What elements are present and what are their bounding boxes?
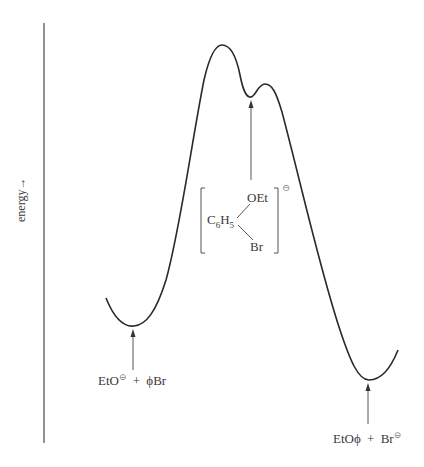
intermediate-charge: ⊝ (282, 183, 290, 193)
energy-profile-svg (0, 0, 424, 467)
reactant-plus: + (133, 373, 140, 388)
reactant-charge: ⊝ (119, 372, 127, 382)
energy-axis-label: energy→ (14, 178, 29, 222)
reactants-label: EtO⊝ + ϕBr (98, 373, 166, 387)
reactant-eto: EtO (98, 373, 119, 388)
intermediate-c6h5-label: C6H5 (207, 213, 234, 230)
intermediate-left-bracket (201, 188, 205, 253)
energy-axis-text: energy→ (14, 178, 28, 222)
reactant-phbr: ϕBr (146, 373, 166, 388)
bond-c-oet (237, 204, 250, 218)
c-text: C (207, 212, 216, 227)
product-etoph: EtOϕ (333, 431, 361, 446)
product-plus: + (367, 431, 374, 446)
product-arrow-head (366, 383, 371, 391)
oet-text: OEt (247, 190, 268, 205)
product-charge: ⊝ (394, 430, 402, 440)
intermediate-charge-symbol: ⊝ (282, 182, 290, 193)
intermediate-arrow-head (249, 100, 254, 108)
intermediate-br-label: Br (250, 240, 263, 253)
reactant-arrow-head (131, 329, 136, 337)
bond-c-br (238, 225, 253, 240)
energy-curve (106, 45, 398, 380)
intermediate-right-bracket (274, 188, 278, 253)
product-br: Br (381, 431, 394, 446)
h-text: H (220, 212, 229, 227)
energy-diagram: energy→ OEt ⊝ C6H5 Br EtO⊝ + ϕBr EtOϕ + … (0, 0, 424, 467)
h-subscript: 5 (230, 220, 235, 230)
products-label: EtOϕ + Br⊝ (333, 431, 401, 445)
br-text: Br (250, 239, 263, 254)
intermediate-oet-label: OEt (247, 191, 268, 204)
